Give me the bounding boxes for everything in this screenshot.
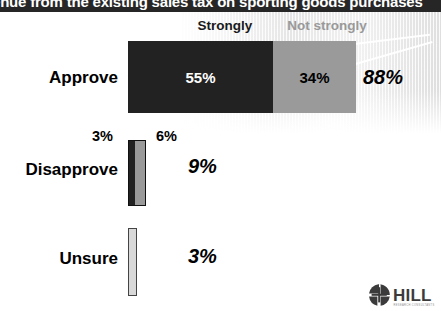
- bar-segment-approve-strongly: 55%: [128, 41, 273, 113]
- bar-segment-approve-not-strongly: 34%: [273, 41, 356, 113]
- row-label-approve: Approve: [0, 68, 118, 88]
- bar-approve: 55% 34%: [128, 41, 356, 113]
- bar-segment-unsure: [129, 229, 136, 295]
- bar-value-disapprove-not-strongly: 6%: [156, 128, 177, 144]
- bar-value-disapprove-strongly: 3%: [92, 128, 113, 144]
- logo-tagline: RESEARCH CONSULTANTS: [394, 303, 435, 307]
- total-approve: 88%: [363, 66, 403, 89]
- logo-wordmark: HILL: [393, 286, 432, 305]
- row-label-disapprove: Disapprove: [0, 160, 118, 180]
- total-disapprove: 9%: [188, 155, 217, 178]
- bar-segment-disapprove-not-strongly: [135, 141, 145, 205]
- legend-label-strongly: Strongly: [170, 18, 280, 33]
- legend-label-not-strongly: Not strongly: [272, 18, 382, 33]
- bar-value-approve-not-strongly: 34%: [273, 69, 356, 86]
- slide-title-bar: enue from the existing sales tax on spor…: [0, 0, 441, 12]
- bar-disapprove: [128, 140, 146, 206]
- page-title: enue from the existing sales tax on spor…: [0, 0, 423, 10]
- bar-value-approve-strongly: 55%: [128, 69, 273, 86]
- pinwheel-circle-icon: [369, 284, 390, 306]
- slide-canvas: enue from the existing sales tax on spor…: [0, 0, 441, 311]
- bar-unsure: [128, 228, 137, 296]
- row-label-unsure: Unsure: [0, 249, 118, 269]
- hill-research-logo: HILL RESEARCH CONSULTANTS: [368, 283, 436, 307]
- total-unsure: 3%: [188, 245, 217, 268]
